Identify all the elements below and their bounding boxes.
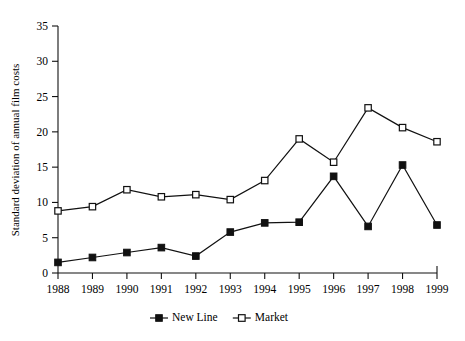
data-point-marker [89,203,95,209]
data-point-marker [365,223,372,230]
y-tick-label: 15 [37,161,49,173]
x-tick-label: 1997 [357,283,380,295]
data-point-marker [262,177,268,183]
y-axis: 05101520253035 [37,20,59,279]
y-tick-label: 35 [37,20,49,32]
data-point-marker [124,187,130,193]
series-new-line [55,162,441,266]
x-tick-label: 1994 [253,283,276,295]
x-tick-label: 1995 [288,283,311,295]
y-axis-title: Standard deviation of annual film costs [9,64,21,237]
data-point-marker [55,259,62,266]
legend-label: Market [255,311,289,323]
series-line [58,108,437,211]
y-tick-label: 5 [42,232,48,244]
series-layer [55,105,441,266]
legend-marker [239,315,246,322]
data-point-marker [124,249,131,256]
data-point-marker [55,208,61,214]
x-tick-label: 1999 [426,283,449,295]
data-point-marker [158,194,164,200]
x-tick-label: 1993 [219,283,242,295]
y-tick-label: 30 [37,55,49,67]
data-point-marker [330,173,337,180]
chart-canvas: 05101520253035 1988198919901991199219931… [0,0,465,341]
data-point-marker [434,222,441,229]
series-line [58,165,437,262]
legend-label: New Line [172,311,218,323]
data-point-marker [261,220,268,227]
series-market [55,105,440,214]
legend-marker [156,315,163,322]
x-tick-label: 1991 [150,283,173,295]
data-point-marker [158,244,165,251]
x-tick-label: 1989 [81,283,104,295]
data-point-marker [365,105,371,111]
x-tick-label: 1992 [184,283,207,295]
data-point-marker [193,253,200,260]
x-tick-label: 1988 [47,283,70,295]
data-point-marker [193,191,199,197]
x-tick-label: 1996 [322,283,345,295]
data-point-marker [399,124,405,130]
x-tick-label: 1998 [391,283,414,295]
x-axis-ticks: 1988198919901991199219931994199519961997… [47,273,449,295]
data-point-marker [296,219,303,226]
y-axis-ticks: 05101520253035 [37,20,59,279]
data-point-marker [227,229,234,236]
y-tick-label: 20 [37,126,49,138]
y-tick-label: 0 [42,267,48,279]
chart-legend: New LineMarket [150,311,289,323]
x-tick-label: 1990 [115,283,138,295]
data-point-marker [399,162,406,169]
data-point-marker [296,136,302,142]
data-point-marker [227,196,233,202]
y-tick-label: 25 [37,91,49,103]
data-point-marker [434,139,440,145]
line-chart: 05101520253035 1988198919901991199219931… [0,0,465,341]
y-tick-label: 10 [37,196,49,208]
data-point-marker [89,254,96,261]
data-point-marker [330,159,336,165]
x-axis: 1988198919901991199219931994199519961997… [47,266,449,295]
